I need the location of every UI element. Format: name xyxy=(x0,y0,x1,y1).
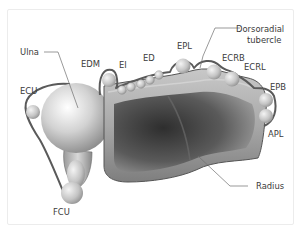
ecrb-tendon xyxy=(207,65,222,80)
label-dorsoradial-line2: tubercle xyxy=(247,35,281,45)
label-epl: EPL xyxy=(177,41,192,51)
label-radius: Radius xyxy=(256,181,284,191)
ulna-bone xyxy=(41,83,111,188)
label-ecrl: ECRL xyxy=(244,62,266,72)
label-dorsoradial-line1: Dorsoradial xyxy=(236,24,284,34)
label-epb: EPB xyxy=(270,82,286,92)
label-edm: EDM xyxy=(81,59,100,69)
label-ecrb: ECRB xyxy=(222,53,245,63)
label-apl: APL xyxy=(268,129,284,139)
epb-tendon xyxy=(259,93,273,107)
label-ecu: ECU xyxy=(20,86,37,96)
epl-tendon xyxy=(176,59,191,74)
edm-tendon xyxy=(102,73,116,87)
wrist-cross-section-diagram: Ulna ECU EDM EI ED EPL Dorsoradial tuber… xyxy=(0,0,301,233)
fcu-tendon xyxy=(61,182,83,204)
ecu-tendon xyxy=(26,105,40,119)
label-ulna: Ulna xyxy=(20,47,39,57)
label-ei: EI xyxy=(119,60,127,70)
apl-tendon xyxy=(259,109,273,123)
label-fcu: FCU xyxy=(53,207,70,217)
label-ed: ED xyxy=(143,53,155,63)
ecrl-tendon xyxy=(225,72,240,87)
